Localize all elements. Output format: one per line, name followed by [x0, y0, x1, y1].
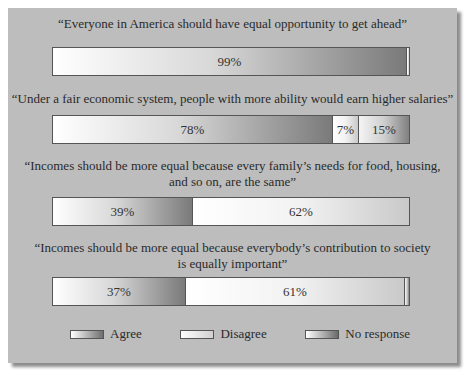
bar-3-disagree-label: 62% [289, 204, 313, 220]
legend-item-disagree: Disagree [180, 326, 266, 342]
bar-1-agree: 99% [53, 48, 407, 75]
bar-2-agree-label: 78% [181, 122, 205, 138]
question-1-text: “Everyone in America should have equal o… [58, 16, 407, 31]
question-4-line1: “Incomes should be more equal because ev… [8, 240, 457, 256]
legend: Agree Disagree No response [70, 326, 410, 342]
legend-swatch-agree [70, 330, 104, 339]
question-3-line1: “Incomes should be more equal because ev… [8, 158, 457, 174]
bar-2-disagree: 7% [332, 116, 358, 143]
legend-label-agree: Agree [110, 326, 142, 342]
bar-1-agree-label: 99% [218, 54, 242, 70]
legend-label-disagree: Disagree [220, 326, 266, 342]
question-3: “Incomes should be more equal because ev… [8, 158, 457, 190]
question-2-text: “Under a fair economic system, people wi… [12, 91, 454, 106]
question-2: “Under a fair economic system, people wi… [8, 91, 457, 107]
bar-3-disagree: 62% [192, 198, 409, 225]
bar-4-disagree-label: 61% [283, 284, 307, 300]
bar-2-disagree-label: 7% [337, 122, 354, 138]
legend-item-noresp: No response [305, 326, 410, 342]
legend-item-agree: Agree [70, 326, 142, 342]
question-4-line2: is equally important” [8, 256, 457, 272]
bar-4-agree: 37% [53, 278, 185, 305]
legend-label-noresp: No response [345, 326, 410, 342]
legend-swatch-noresp [305, 330, 339, 339]
bar-2-noresp-label: 15% [372, 122, 396, 138]
bar-4-noresp [404, 278, 409, 305]
bar-3-agree-label: 39% [111, 204, 135, 220]
bar-3-agree: 39% [53, 198, 192, 225]
question-4: “Incomes should be more equal because ev… [8, 240, 457, 272]
bar-4: 37% 61% [52, 277, 410, 306]
question-1: “Everyone in America should have equal o… [8, 16, 457, 32]
bar-1-noresp [407, 48, 409, 75]
bar-4-disagree: 61% [185, 278, 404, 305]
bar-2: 78% 7% 15% [52, 115, 410, 144]
bar-2-noresp: 15% [358, 116, 409, 143]
bar-3: 39% 62% [52, 197, 410, 226]
bar-4-agree-label: 37% [107, 284, 131, 300]
legend-swatch-disagree [180, 330, 214, 339]
question-3-line2: and so on, are the same” [8, 174, 457, 190]
bar-2-agree: 78% [53, 116, 332, 143]
bar-1: 99% [52, 47, 410, 76]
